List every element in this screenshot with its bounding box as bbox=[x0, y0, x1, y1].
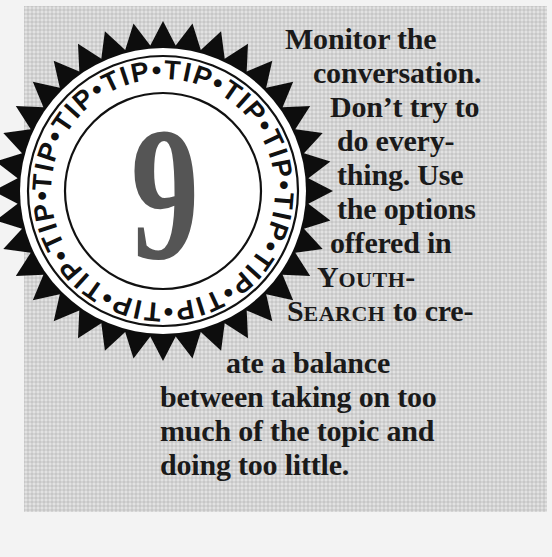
small-caps-initial: Y bbox=[317, 260, 338, 293]
tip-line: offered in bbox=[330, 226, 452, 260]
tip-line: much of the topic and bbox=[160, 414, 434, 448]
tip-line: between taking on too bbox=[160, 380, 437, 414]
tip-line: Monitor the bbox=[285, 22, 436, 56]
tip-line: doing too little. bbox=[160, 448, 349, 482]
tip-line: do every- bbox=[337, 124, 454, 158]
tip-line: conversation. bbox=[313, 56, 481, 90]
tip-line: ate a balance bbox=[226, 346, 390, 380]
hyphen: - bbox=[405, 260, 415, 293]
tip-line-youthsearch-2: SEARCH to cre- bbox=[287, 294, 473, 331]
tip-line: the options bbox=[337, 192, 476, 226]
small-caps-initial: S bbox=[287, 294, 304, 327]
tip-line: thing. Use bbox=[337, 158, 463, 192]
small-caps-rest: EARCH bbox=[304, 301, 386, 326]
tip-body-text: Monitor the conversation. Don’t try to d… bbox=[0, 0, 552, 557]
line-continuation: to cre- bbox=[385, 294, 473, 327]
tip-line: Don’t try to bbox=[330, 90, 479, 124]
small-caps-rest: OUTH bbox=[338, 267, 405, 292]
tip-line-youthsearch-1: YOUTH- bbox=[317, 260, 415, 297]
